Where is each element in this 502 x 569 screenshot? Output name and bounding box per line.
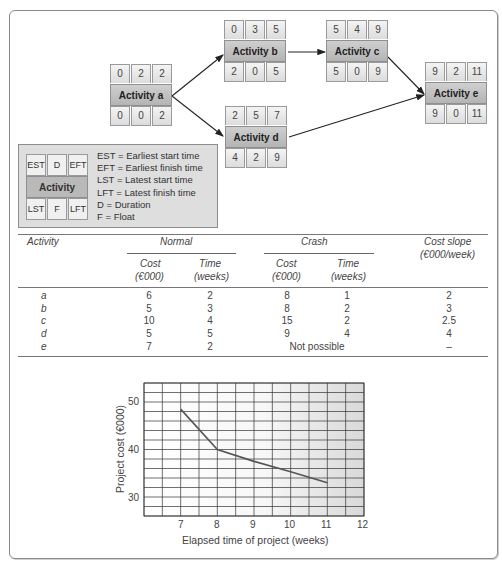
x-tick: 10 bbox=[284, 519, 295, 530]
x-tick: 11 bbox=[321, 519, 331, 530]
y-tick: 50 bbox=[128, 396, 139, 407]
y-tick: 40 bbox=[128, 444, 139, 455]
cost-time-chart bbox=[0, 0, 502, 569]
x-tick: 7 bbox=[178, 519, 184, 530]
x-tick: 9 bbox=[250, 519, 256, 530]
y-tick: 30 bbox=[128, 492, 139, 503]
x-tick: 8 bbox=[214, 519, 220, 530]
y-axis-label: Project cost (€000) bbox=[114, 399, 126, 499]
x-axis-label: Elapsed time of project (weeks) bbox=[182, 534, 328, 546]
x-tick: 12 bbox=[357, 519, 368, 530]
